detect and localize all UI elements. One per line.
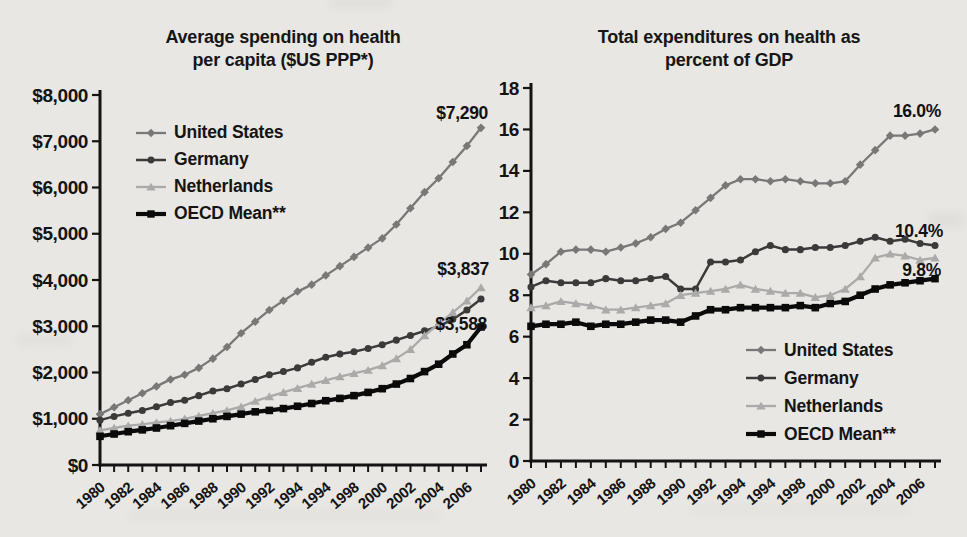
diamond-legend-icon xyxy=(136,126,166,140)
y-tick-label: 2 xyxy=(509,409,519,430)
circle-marker xyxy=(632,277,639,284)
y-tick-label: 4 xyxy=(509,368,520,389)
square-marker xyxy=(336,395,344,403)
legend-label: OECD Mean** xyxy=(784,424,896,445)
x-tick-label: 1980 xyxy=(72,478,108,512)
circle-marker xyxy=(557,279,564,286)
circle-marker xyxy=(365,345,372,352)
square-marker xyxy=(266,407,274,415)
square-marker xyxy=(757,430,764,437)
square-marker xyxy=(856,291,864,299)
annotation-label: $7,290 xyxy=(436,103,488,123)
legend-item-germany: Germany xyxy=(746,364,896,392)
circle-marker xyxy=(722,259,729,266)
circle-marker xyxy=(181,397,188,404)
circle-marker xyxy=(572,279,579,286)
diamond-marker xyxy=(931,125,940,134)
legend-label: Germany xyxy=(174,149,248,170)
right-chart-legend: United StatesGermanyNetherlandsOECD Mean… xyxy=(746,336,896,448)
legend-label: United States xyxy=(784,340,893,361)
circle-marker xyxy=(280,368,287,375)
square-marker xyxy=(602,320,610,328)
diamond-marker xyxy=(661,225,670,234)
legend-item-netherlands: Netherlands xyxy=(136,173,286,200)
square-marker xyxy=(124,428,132,436)
series-germany xyxy=(96,296,484,424)
legend-item-oecd-mean: OECD Mean** xyxy=(136,200,286,227)
x-tick-label: 2000 xyxy=(803,474,839,508)
diamond-marker xyxy=(180,371,189,380)
x-tick-label: 1988 xyxy=(185,478,221,512)
x-tick-label: 1982 xyxy=(533,474,569,508)
triangle-marker xyxy=(377,361,386,369)
diamond-marker xyxy=(781,175,790,184)
square-marker xyxy=(617,320,625,328)
square-marker xyxy=(782,304,790,312)
legend-label: United States xyxy=(174,122,283,143)
diamond-marker xyxy=(646,233,655,242)
x-tick-label: 1994 xyxy=(270,478,306,512)
circle-marker xyxy=(252,376,259,383)
y-tick-label: $5,000 xyxy=(32,223,88,244)
square-marker xyxy=(167,422,175,430)
circle-marker xyxy=(857,238,864,245)
x-tick-label: 2002 xyxy=(833,474,869,508)
circle-marker xyxy=(294,364,301,371)
square-marker xyxy=(647,316,655,324)
square-marker xyxy=(407,375,415,383)
x-tick-label: 1986 xyxy=(157,478,193,512)
circle-marker xyxy=(758,375,765,382)
annotation-label: 9.8% xyxy=(902,260,941,280)
circle-marker xyxy=(767,242,774,249)
series-united-states xyxy=(527,125,940,279)
square-marker xyxy=(251,408,259,416)
diamond-marker xyxy=(110,403,119,412)
circle-marker xyxy=(737,256,744,263)
x-tick-label: 1986 xyxy=(593,474,629,508)
square-marker xyxy=(393,380,401,388)
diamond-marker xyxy=(587,245,596,254)
circle-marker xyxy=(111,413,118,420)
annotation-label: 16.0% xyxy=(893,101,942,121)
x-tick-label: 1994 xyxy=(713,474,749,508)
diamond-marker xyxy=(616,243,625,252)
legend-label: Netherlands xyxy=(174,176,273,197)
diamond-marker xyxy=(572,245,581,254)
square-marker xyxy=(421,368,429,376)
annotation-label: $3,837 xyxy=(437,259,489,279)
circle-marker xyxy=(407,332,414,339)
y-tick-label: 8 xyxy=(509,285,519,306)
square-marker xyxy=(181,420,189,428)
square-marker xyxy=(527,323,535,331)
diamond-marker xyxy=(147,128,155,136)
y-tick-label: 6 xyxy=(509,326,519,347)
triangle-legend-icon xyxy=(136,180,166,194)
legend-item-germany: Germany xyxy=(136,146,286,173)
x-tick-label: 1984 xyxy=(129,478,165,512)
y-tick-label: 12 xyxy=(499,202,519,223)
square-marker xyxy=(707,306,715,314)
square-marker xyxy=(662,316,670,324)
square-marker xyxy=(901,279,909,287)
square-marker xyxy=(871,285,879,293)
x-tick-label: 1984 xyxy=(563,474,599,508)
circle-marker xyxy=(322,354,329,361)
circle-marker xyxy=(827,244,834,251)
diamond-marker xyxy=(736,175,745,184)
square-marker xyxy=(557,320,565,328)
legend-label: OECD Mean** xyxy=(174,203,286,224)
y-tick-label: $4,000 xyxy=(32,270,88,291)
square-marker xyxy=(767,304,775,312)
square-marker xyxy=(110,430,118,438)
circle-marker xyxy=(752,248,759,255)
circle-marker xyxy=(308,359,315,366)
diamond-marker xyxy=(901,131,910,140)
square-marker xyxy=(308,400,316,408)
circle-marker xyxy=(872,234,879,241)
circle-marker xyxy=(336,350,343,357)
annotation-label: 10.4% xyxy=(895,221,944,241)
x-tick-label: 1998 xyxy=(773,474,809,508)
circle-marker xyxy=(617,277,624,284)
circle-marker xyxy=(931,242,938,249)
legend-item-oecd-mean: OECD Mean** xyxy=(746,420,896,448)
